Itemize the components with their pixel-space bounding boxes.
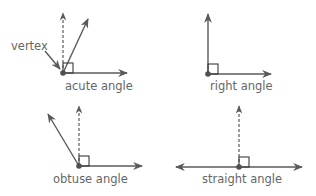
vertex-dot bbox=[60, 70, 66, 76]
right-angle-label: right angle bbox=[210, 79, 273, 93]
acute-angle-figure: vertex acute angle bbox=[11, 13, 133, 93]
vertex-dot bbox=[205, 71, 211, 77]
angle-types-diagram: vertex acute angle right angle obtuse an… bbox=[0, 0, 316, 196]
vertex-callout-arrow bbox=[45, 51, 60, 69]
straight-angle-label: straight angle bbox=[202, 172, 282, 186]
vertex-dot bbox=[236, 164, 242, 170]
right-angle-figure: right angle bbox=[205, 14, 272, 93]
straight-angle-figure: straight angle bbox=[176, 106, 302, 186]
acute-angle-label: acute angle bbox=[65, 79, 133, 93]
vertex-label: vertex bbox=[11, 39, 48, 53]
vertex-dot bbox=[76, 163, 82, 169]
obtuse-angle-figure: obtuse angle bbox=[48, 106, 142, 186]
angle-ray bbox=[63, 19, 88, 73]
obtuse-angle-label: obtuse angle bbox=[53, 172, 128, 186]
angle-ray bbox=[48, 114, 79, 166]
